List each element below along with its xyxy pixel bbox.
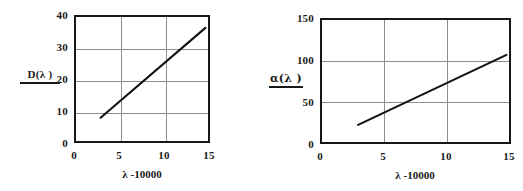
x-axis-label: λ -10000 (92, 168, 192, 180)
y-tick-label: 50 (286, 97, 314, 108)
x-tick-label: 5 (373, 151, 393, 162)
x-tick-label: 15 (499, 151, 519, 162)
x-tick-label: 0 (310, 151, 330, 162)
plot-area (320, 18, 511, 144)
x-tick-label: 0 (64, 150, 84, 161)
x-axis-label: λ -10000 (365, 169, 465, 181)
series-plot (76, 17, 208, 141)
y-axis-label-text: D(λ ) (12, 68, 68, 81)
series-plot (322, 20, 509, 142)
y-axis-label-rule (269, 86, 303, 88)
y-axis-label: α(λ ) (262, 72, 310, 88)
chart-panel-alpha-lambda: 150 100 50 0 α(λ ) 0 5 10 15 λ -10000 (262, 0, 523, 191)
y-tick-label: 0 (46, 138, 68, 149)
x-tick-label: 10 (154, 150, 174, 161)
plot-area (74, 15, 210, 143)
x-tick-label: 5 (109, 150, 129, 161)
y-tick-label: 30 (46, 42, 68, 53)
series-line-d-lambda (101, 28, 206, 118)
y-tick-label: 40 (46, 10, 68, 21)
y-tick-label: 150 (286, 13, 314, 24)
y-axis-label: D(λ ) (12, 68, 68, 84)
figure-two-line-charts: 40 30 20 10 0 D(λ ) 0 5 10 15 (0, 0, 523, 191)
x-tick-label: 10 (436, 151, 456, 162)
x-tick-label: 15 (199, 150, 219, 161)
y-tick-label: 100 (286, 55, 314, 66)
series-line-alpha-lambda (358, 55, 506, 125)
chart-panel-d-lambda: 40 30 20 10 0 D(λ ) 0 5 10 15 (0, 0, 262, 191)
y-tick-label: 0 (286, 139, 314, 150)
y-tick-label: 10 (46, 106, 68, 117)
y-axis-label-text: α(λ ) (262, 72, 310, 85)
y-axis-label-rule (20, 82, 60, 84)
